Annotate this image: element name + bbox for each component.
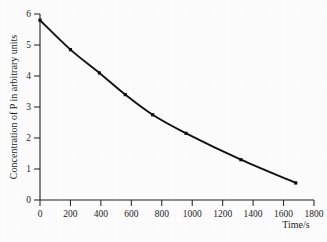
x-tick-group (40, 200, 314, 206)
data-point-marker (239, 158, 242, 161)
y-axis-label: Concentration of P in arbitrary units (8, 35, 19, 179)
x-tick-label: 800 (155, 209, 170, 219)
data-point-marker (294, 181, 297, 184)
y-tick-label: 2 (26, 133, 31, 143)
x-tick-label: 400 (94, 209, 109, 219)
x-tick-label: 1600 (274, 209, 293, 219)
data-point-marker (185, 132, 188, 135)
decay-line-chart: 0123456 02004006008001000120014001600180… (0, 0, 327, 242)
x-axis-label: Time/s (282, 219, 310, 230)
x-tick-label: 1400 (244, 209, 263, 219)
y-tick-label: 4 (26, 71, 31, 81)
figure-panel: 0123456 02004006008001000120014001600180… (0, 0, 327, 242)
series-line-concentration (40, 20, 296, 183)
x-tick-label: 200 (63, 209, 78, 219)
y-tick-label: 6 (26, 9, 31, 19)
series-marker-group (38, 19, 297, 185)
x-tick-label: 600 (124, 209, 139, 219)
y-tick-label: 1 (26, 164, 31, 174)
data-point-marker (151, 113, 154, 116)
data-point-marker (124, 93, 127, 96)
x-ticklabel-group: 020040060080010001200140016001800 (38, 209, 324, 219)
x-tick-label: 1000 (183, 209, 202, 219)
data-point-marker (38, 19, 41, 22)
data-point-marker (69, 48, 72, 51)
x-tick-label: 1200 (213, 209, 232, 219)
y-tick-label: 5 (26, 40, 31, 50)
axes-group (40, 14, 314, 200)
data-point-marker (98, 71, 101, 74)
x-tick-label: 0 (38, 209, 43, 219)
y-tick-group (34, 14, 40, 200)
y-tick-label: 0 (26, 195, 31, 205)
x-tick-label: 1800 (305, 209, 324, 219)
y-ticklabel-group: 0123456 (26, 9, 31, 205)
y-tick-label: 3 (26, 102, 31, 112)
